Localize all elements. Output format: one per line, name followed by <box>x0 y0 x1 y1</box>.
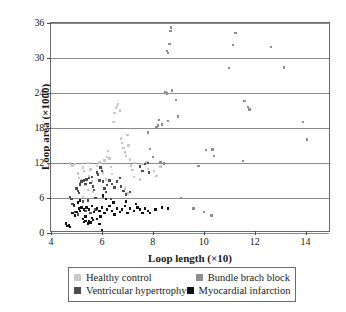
data-point <box>96 218 98 220</box>
data-point <box>141 170 143 172</box>
data-point <box>113 213 115 215</box>
data-point <box>248 108 250 110</box>
gridline <box>51 58 329 59</box>
x-tick-label: 14 <box>301 237 311 247</box>
data-point <box>159 165 161 167</box>
data-point <box>133 210 135 212</box>
data-point <box>89 212 91 214</box>
data-point <box>125 193 127 195</box>
data-point <box>77 201 79 203</box>
data-point <box>121 208 123 210</box>
data-point <box>91 176 93 178</box>
data-point <box>70 198 72 200</box>
gridline <box>51 163 329 164</box>
data-point <box>108 179 110 181</box>
legend-swatch-icon <box>196 274 203 281</box>
data-point <box>129 207 131 209</box>
data-point <box>110 166 112 168</box>
legend-label: Ventricular hypertrophy <box>86 284 187 297</box>
data-point <box>105 191 107 193</box>
y-tick-label: 36 <box>34 18 44 28</box>
data-point <box>79 183 81 185</box>
data-point <box>166 92 168 94</box>
data-point <box>91 205 93 207</box>
y-tick-mark <box>47 93 51 94</box>
data-point <box>192 207 194 209</box>
data-point <box>103 212 105 214</box>
data-point <box>135 203 137 205</box>
data-point <box>94 197 96 199</box>
data-point <box>93 189 95 191</box>
x-tick-mark <box>204 231 205 235</box>
legend-swatch-icon <box>74 274 81 281</box>
scatter-plot-figure: Loop area (×1000) 061218243036 468101214… <box>0 0 346 312</box>
data-point <box>77 213 79 215</box>
data-point <box>120 137 122 139</box>
y-tick-mark <box>47 23 51 24</box>
data-point <box>108 157 110 159</box>
data-point <box>197 165 199 167</box>
data-point <box>82 166 84 168</box>
x-tick-label: 6 <box>99 237 104 247</box>
data-point <box>167 120 169 122</box>
legend-row: Healthy control Bundle brach block <box>74 271 290 284</box>
legend-swatch-icon <box>187 287 194 294</box>
data-point <box>106 184 108 186</box>
data-point <box>69 226 71 228</box>
data-point <box>155 175 157 177</box>
data-point <box>87 162 89 164</box>
x-tick-mark <box>255 231 256 235</box>
data-point <box>84 215 86 217</box>
y-tick-label: 0 <box>39 228 44 238</box>
y-tick-mark <box>47 163 51 164</box>
data-point <box>131 169 133 171</box>
gridline <box>51 23 329 24</box>
data-point <box>242 160 244 162</box>
data-point <box>171 89 173 91</box>
gridline <box>51 93 329 94</box>
data-point <box>103 187 105 189</box>
data-point <box>92 191 94 193</box>
data-point <box>79 199 81 201</box>
data-point <box>213 155 215 157</box>
data-point <box>84 183 86 185</box>
gridline <box>51 233 329 234</box>
data-point <box>203 211 205 213</box>
data-point <box>169 30 171 32</box>
data-point <box>82 200 84 202</box>
data-point <box>153 170 155 172</box>
data-point <box>122 147 124 149</box>
data-point <box>74 214 76 216</box>
data-point <box>111 173 113 175</box>
x-tick-mark <box>102 231 103 235</box>
x-tick-label: 12 <box>250 237 260 247</box>
data-point <box>75 211 77 213</box>
data-point <box>92 219 94 221</box>
data-point <box>89 168 91 170</box>
data-point <box>111 183 113 185</box>
data-point <box>77 172 79 174</box>
data-point <box>119 211 121 213</box>
y-tick-mark <box>47 58 51 59</box>
data-point <box>103 159 105 161</box>
data-point <box>141 212 143 214</box>
data-point <box>139 208 141 210</box>
legend: Healthy control Bundle brach block Ventr… <box>68 267 296 302</box>
y-tick-label: 18 <box>34 123 44 133</box>
data-point <box>149 148 151 150</box>
data-point <box>98 161 100 163</box>
x-tick-label: 4 <box>49 237 54 247</box>
legend-label: Myocardial infarction <box>199 284 291 297</box>
data-point <box>243 100 245 102</box>
legend-entry-healthy-control: Healthy control <box>74 271 196 284</box>
data-point <box>228 67 230 69</box>
data-point <box>108 205 110 207</box>
data-point <box>93 211 95 213</box>
data-point <box>97 173 99 175</box>
data-point <box>107 150 109 152</box>
data-point <box>154 208 156 210</box>
data-point <box>167 207 169 209</box>
data-point <box>159 161 161 163</box>
legend-label: Healthy control <box>86 271 152 284</box>
data-point <box>161 206 163 208</box>
